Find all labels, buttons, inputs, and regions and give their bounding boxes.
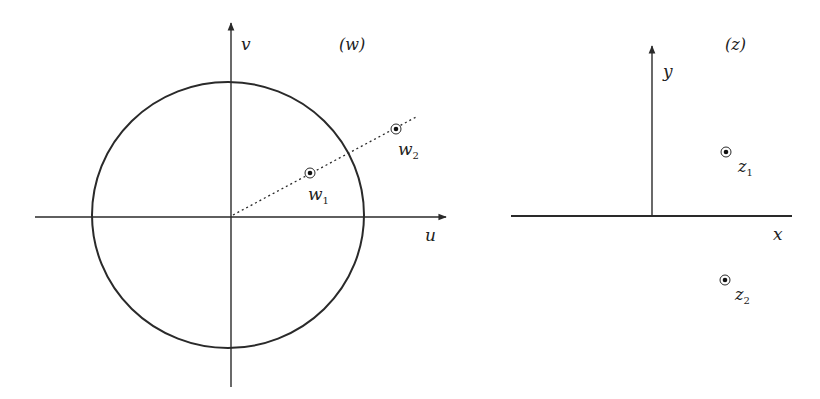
v-axis-label: v (241, 34, 251, 54)
z1-label: z1 (737, 157, 753, 178)
diagram-canvas: v (w) u w1 w2 y (z) x z1 (0, 0, 820, 399)
z2-label: z2 (734, 285, 750, 306)
z-plane-title: (z) (725, 35, 746, 54)
w-plane-title: (w) (339, 35, 365, 54)
z-plane: y (z) x z1 z2 (511, 35, 792, 306)
point-z1 (721, 147, 731, 157)
u-axis-label: u (425, 225, 436, 245)
w1-label: w1 (308, 184, 329, 206)
w2-label: w2 (398, 139, 419, 161)
y-axis-label: y (662, 61, 673, 81)
w-plane: v (w) u w1 w2 (35, 23, 446, 387)
point-w1 (305, 168, 315, 178)
x-axis-label: x (773, 224, 783, 244)
point-w2 (391, 124, 401, 134)
point-z2 (720, 275, 730, 285)
unit-circle (92, 82, 364, 348)
